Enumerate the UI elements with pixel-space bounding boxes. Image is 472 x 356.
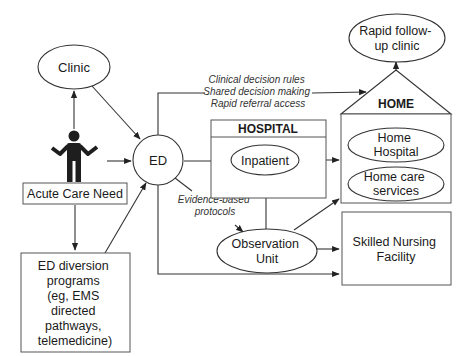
person-icon bbox=[52, 131, 97, 183]
ed-to-home-annotation: Clinical decision rules Shared decision … bbox=[203, 74, 313, 109]
edge-ed-home-b bbox=[312, 92, 366, 93]
acute-care-need-label: Acute Care Need bbox=[27, 187, 123, 201]
clinic-node: Clinic bbox=[38, 45, 110, 89]
clinic-label: Clinic bbox=[58, 60, 90, 75]
hospital-node: HOSPITAL Inpatient bbox=[211, 120, 326, 198]
home-node: HOME Home Hospital Home care services bbox=[341, 70, 451, 203]
edge-ed-observation-a bbox=[175, 178, 192, 191]
observation-unit-node: Observation Unit bbox=[217, 229, 317, 273]
home-hospital-label: Home Hospital bbox=[373, 131, 418, 159]
rapid-followup-clinic-node: Rapid follow- up clinic bbox=[349, 14, 445, 62]
edge-obs-home bbox=[294, 199, 339, 230]
hospital-title: HOSPITAL bbox=[238, 122, 298, 136]
ed-node: ED bbox=[133, 135, 183, 185]
home-care-services-label: Home care services bbox=[364, 170, 429, 198]
edge-ed-home-a bbox=[158, 93, 205, 135]
ed-diversion-node: ED diversion programs (eg, EMS directed … bbox=[21, 253, 130, 352]
skilled-nursing-facility-node: Skilled Nursing Facility bbox=[342, 212, 451, 285]
ed-label: ED bbox=[149, 153, 167, 168]
care-pathway-diagram: Clinic Acute Care Need ED diversion prog… bbox=[0, 0, 472, 356]
edge-ed-observation-b bbox=[235, 225, 243, 232]
home-title: HOME bbox=[378, 97, 414, 111]
acute-care-need-node: Acute Care Need bbox=[23, 183, 127, 204]
inpatient-label: Inpatient bbox=[241, 154, 289, 168]
edge-clinic-ed bbox=[92, 86, 140, 139]
